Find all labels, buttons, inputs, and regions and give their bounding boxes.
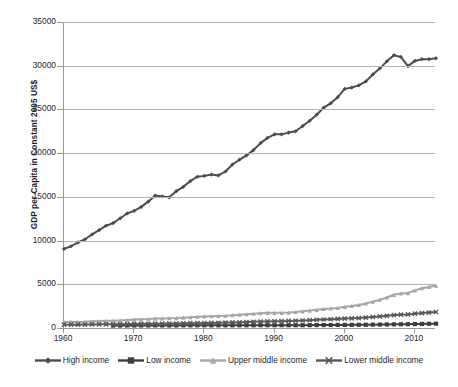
x-tick-label: 1960 [54,333,73,343]
data-point-marker [434,322,438,326]
x-tick-label: 1970 [124,333,143,343]
series-layer [64,22,436,328]
x-tick-label: 2000 [334,333,353,343]
data-point-marker [279,323,283,327]
legend-marker-icon [118,356,144,365]
data-point-marker [392,322,396,326]
gridline [64,153,435,154]
data-point-marker [279,132,283,136]
data-point-marker [209,172,213,176]
data-point-marker [420,322,424,326]
legend-label: Upper middle income [228,356,307,364]
data-point-marker [385,322,389,326]
data-point-marker [350,323,354,327]
y-tick-label: 0 [8,323,56,331]
data-point-marker [343,323,347,327]
data-point-marker [427,57,431,61]
data-point-marker [357,323,361,327]
data-point-marker [427,322,431,326]
gridline [64,328,435,329]
legend-item-high-income[interactable]: High income [35,356,110,365]
legend-label: High income [63,356,110,364]
legend-label: Lower middle income [344,356,423,364]
gridline [64,241,435,242]
data-point-marker [294,323,298,327]
x-tick-label: 1980 [194,333,213,343]
data-point-marker [287,323,291,327]
data-point-marker [308,323,312,327]
legend-label: Low income [146,356,191,364]
y-tick-label: 5000 [8,279,56,287]
plot-area [63,22,435,328]
y-tick-label: 20000 [8,148,56,156]
data-point-marker [272,323,276,327]
x-tick-label: 1990 [264,333,283,343]
legend-item-low-income[interactable]: Low income [118,356,191,365]
gridline [64,109,435,110]
data-point-marker [420,57,424,61]
gridline [64,66,435,67]
data-point-marker [322,323,326,327]
data-point-marker [287,130,291,134]
x-tick-mark [414,328,415,333]
legend-marker-icon [316,356,342,365]
y-tick-label: 35000 [8,17,56,25]
data-point-marker [406,322,410,326]
data-point-marker [301,323,305,327]
data-point-marker [413,322,417,326]
x-tick-mark [274,328,275,333]
data-point-marker [364,323,368,327]
legend-item-lower-middle-income[interactable]: Lower middle income [316,356,423,365]
legend-item-upper-middle-income[interactable]: Upper middle income [200,356,307,365]
x-tick-mark [203,328,204,333]
legend-marker-icon [35,356,61,365]
data-point-marker [336,323,340,327]
data-point-marker [315,323,319,327]
x-tick-mark [133,328,134,333]
chart-legend: High incomeLow incomeUpper middle income… [0,356,458,365]
x-tick-mark [344,328,345,333]
y-tick-label: 15000 [8,192,56,200]
x-axis-tick-labels: 196019701980199020002010 [0,333,458,347]
gridline [64,197,435,198]
series-high-income [62,53,438,251]
data-point-marker [399,322,403,326]
gdp-per-capita-line-chart: GDP per Capita in Constant 2005 US$ 0500… [0,0,458,387]
data-point-marker [202,174,206,178]
x-tick-mark [63,328,64,333]
x-tick-label: 2010 [405,333,424,343]
y-tick-label: 25000 [8,104,56,112]
data-point-marker [371,323,375,327]
gridline [64,284,435,285]
legend-marker-icon [200,356,226,365]
data-point-marker [329,323,333,327]
gridline [64,22,435,23]
y-tick-label: 30000 [8,61,56,69]
y-tick-label: 10000 [8,236,56,244]
data-point-marker [378,322,382,326]
